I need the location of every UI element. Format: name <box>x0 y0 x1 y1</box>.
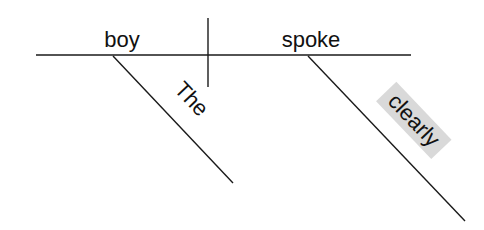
highlighted-modifier: clearly <box>376 82 451 159</box>
sentence-diagram: boy spoke The clearly <box>0 0 484 230</box>
subject-word: boy <box>104 27 139 52</box>
subject-modifier-word: The <box>170 76 214 121</box>
verb-modifier-word: clearly <box>383 88 445 151</box>
verb-word: spoke <box>282 27 341 52</box>
modifier-line-the <box>113 56 233 183</box>
